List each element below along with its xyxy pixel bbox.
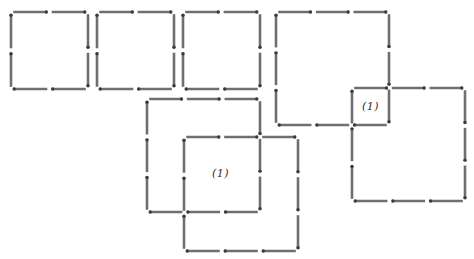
matchstick <box>316 10 350 13</box>
matchstick <box>296 215 299 249</box>
matchstick <box>99 10 134 13</box>
matchstick <box>387 90 390 124</box>
matchstick <box>315 123 349 126</box>
matchstick <box>391 199 425 202</box>
matchstick <box>225 97 259 100</box>
matchstick <box>274 51 277 85</box>
matchstick <box>463 166 466 200</box>
matchstick <box>350 127 353 161</box>
matchstick <box>145 101 148 135</box>
matchstick <box>86 14 89 49</box>
matchstick <box>185 87 220 90</box>
matchstick <box>13 87 48 90</box>
matchstick <box>430 86 464 89</box>
matchstick <box>463 128 466 162</box>
matchstick <box>95 14 98 49</box>
matchstick <box>182 177 185 211</box>
matchstick <box>149 210 183 213</box>
square-3 <box>181 10 261 90</box>
matchstick <box>138 10 173 13</box>
overlap-label-bottom: (1) <box>212 167 229 180</box>
matchstick <box>186 135 220 138</box>
matchstick <box>274 14 277 48</box>
matchstick <box>463 90 466 124</box>
matchstick <box>274 89 277 123</box>
matchstick <box>182 215 185 249</box>
matchstick <box>354 10 388 13</box>
matchstick <box>224 135 258 138</box>
overlap-label-right: (1) <box>362 100 379 113</box>
matchstick <box>95 52 98 87</box>
large-square-bottom-b <box>182 135 299 252</box>
square-2 <box>95 10 175 90</box>
matchstick <box>262 249 296 252</box>
matchstick <box>350 165 353 199</box>
matchstick <box>224 10 259 13</box>
matchstick <box>258 53 261 88</box>
matchstick <box>278 123 312 126</box>
matchstick-diagram <box>0 0 474 259</box>
matchstick <box>52 10 87 13</box>
matchstick <box>137 87 172 90</box>
matchstick <box>181 52 184 87</box>
matchstick <box>172 53 175 88</box>
matchstick <box>353 123 387 126</box>
matchstick <box>387 52 390 86</box>
matchstick <box>278 10 312 13</box>
matchstick <box>99 87 134 90</box>
matchstick <box>186 210 220 213</box>
matchstick <box>9 14 12 49</box>
matchstick <box>258 101 261 135</box>
matchstick <box>145 138 148 172</box>
matchstick <box>258 14 261 49</box>
matchstick <box>258 139 261 173</box>
matchstick <box>296 177 299 211</box>
matchstick <box>181 14 184 49</box>
matchstick <box>262 135 296 138</box>
matchstick <box>392 86 426 89</box>
large-square-bottom-a <box>145 97 261 213</box>
matchstick <box>258 177 261 211</box>
matchstick <box>145 176 148 210</box>
matchstick <box>172 14 175 49</box>
matchstick <box>224 249 258 252</box>
matchstick <box>223 87 258 90</box>
matchstick <box>296 139 299 173</box>
square-1 <box>9 10 89 90</box>
matchstick <box>186 249 220 252</box>
matchstick <box>354 86 388 89</box>
matchstick <box>185 10 220 13</box>
matchstick <box>224 210 258 213</box>
matchstick <box>9 52 12 87</box>
matchstick <box>187 97 221 100</box>
matchstick <box>86 53 89 88</box>
matchstick <box>149 97 183 100</box>
matchstick <box>350 90 353 124</box>
matchstick <box>354 199 388 202</box>
matchstick <box>429 199 463 202</box>
matchstick <box>51 87 86 90</box>
matchstick <box>182 139 185 173</box>
matchstick <box>387 14 390 48</box>
matchstick <box>13 10 48 13</box>
